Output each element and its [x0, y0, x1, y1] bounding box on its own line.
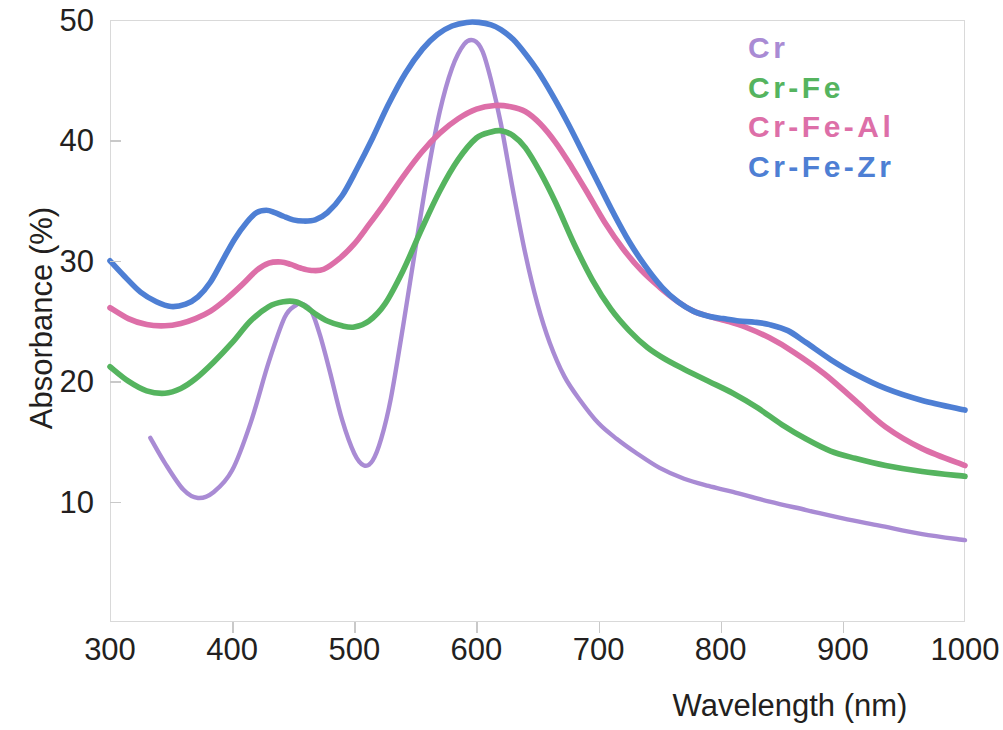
x-tick-label-900: 900: [783, 634, 903, 665]
x-tick-mark-500: [354, 622, 356, 633]
x-tick-label-1000: 1000: [905, 634, 1003, 665]
legend-item-cr: Cr: [748, 28, 978, 68]
y-tick-mark-40: [110, 140, 121, 142]
y-tick-label-50: 50: [8, 5, 94, 36]
x-tick-mark-900: [843, 622, 845, 633]
x-tick-label-300: 300: [50, 634, 170, 665]
legend-item-cr-fe-al: Cr-Fe-Al: [748, 107, 978, 147]
y-tick-mark-20: [110, 381, 121, 383]
x-tick-label-700: 700: [539, 634, 659, 665]
y-tick-mark-10: [110, 502, 121, 504]
legend-item-cr-fe: Cr-Fe: [748, 68, 978, 108]
x-tick-label-600: 600: [416, 634, 536, 665]
x-axis-title: Wavelength (nm): [600, 688, 980, 724]
legend: CrCr-FeCr-Fe-AlCr-Fe-Zr: [748, 28, 978, 186]
legend-item-cr-fe-zr: Cr-Fe-Zr: [748, 147, 978, 187]
x-tick-label-400: 400: [172, 634, 292, 665]
y-axis-title: Absorbance (%): [24, 83, 60, 553]
x-tick-mark-600: [476, 622, 478, 633]
x-tick-mark-400: [232, 622, 234, 633]
x-tick-mark-800: [721, 622, 723, 633]
x-tick-label-500: 500: [294, 634, 414, 665]
x-tick-mark-700: [599, 622, 601, 633]
y-tick-mark-30: [110, 261, 121, 263]
x-tick-label-800: 800: [661, 634, 781, 665]
